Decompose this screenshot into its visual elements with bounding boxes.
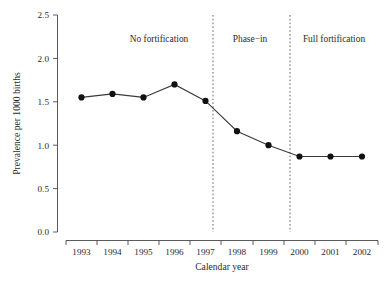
y-tick-label-0_5: 0.5: [38, 184, 50, 194]
data-point-1995: [140, 94, 146, 100]
data-point-2002: [359, 153, 365, 159]
data-point-1994: [109, 91, 115, 97]
chart-canvas: 2.5 2.0 1.5 1.0 0.5 0.0 Prevalence per 1…: [0, 0, 388, 283]
region-label-full-fortification: Full fortification: [303, 34, 366, 44]
data-point-1997: [202, 98, 208, 104]
x-axis-ticks: [66, 241, 378, 246]
region-dividers: [213, 15, 290, 232]
prevalence-line-chart-figure: 2.5 2.0 1.5 1.0 0.5 0.0 Prevalence per 1…: [0, 0, 388, 283]
x-tick-label-1999: 1999: [259, 247, 278, 257]
series-line-prevalence: [82, 84, 363, 156]
data-point-1993: [78, 94, 84, 100]
x-tick-label-1993: 1993: [72, 247, 91, 257]
x-tick-label-1995: 1995: [134, 247, 153, 257]
data-point-2000: [296, 153, 302, 159]
y-axis-title: Prevalence per 1000 births: [11, 72, 22, 175]
x-tick-label-1996: 1996: [165, 247, 184, 257]
data-point-1999: [265, 142, 271, 148]
y-tick-label-1_0: 1.0: [38, 141, 50, 151]
y-axis-tick-labels: 2.5 2.0 1.5 1.0 0.5 0.0: [38, 10, 50, 237]
y-tick-label-0_0: 0.0: [38, 227, 50, 237]
x-tick-label-2001: 2001: [321, 247, 340, 257]
x-tick-label-2000: 2000: [290, 247, 309, 257]
x-tick-label-1994: 1994: [103, 247, 122, 257]
y-tick-label-2_0: 2.0: [38, 54, 50, 64]
series-markers: [78, 81, 365, 159]
data-point-1996: [171, 81, 177, 87]
y-tick-label-1_5: 1.5: [38, 97, 50, 107]
y-tick-label-2_5: 2.5: [38, 10, 50, 20]
region-label-no-fortification: No fortification: [130, 34, 189, 44]
x-tick-label-1997: 1997: [196, 247, 215, 257]
region-labels: No fortification Phase−in Full fortifica…: [130, 34, 366, 44]
x-axis-tick-labels: 1993 1994 1995 1996 1997 1998 1999 2000 …: [72, 247, 371, 257]
x-tick-label-2002: 2002: [353, 247, 372, 257]
region-label-phase-in: Phase−in: [233, 34, 268, 44]
x-axis-title: Calendar year: [195, 261, 249, 272]
x-tick-label-1998: 1998: [228, 247, 247, 257]
y-axis-ticks: [53, 15, 58, 232]
data-point-1998: [234, 128, 240, 134]
data-point-2001: [327, 153, 333, 159]
